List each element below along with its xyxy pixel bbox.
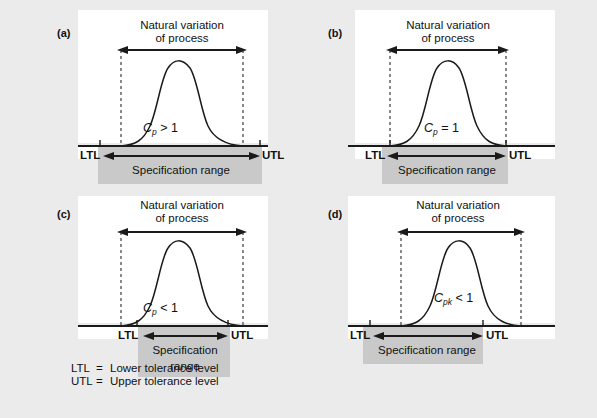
panel-d-utl-label: UTL xyxy=(486,329,508,341)
legend-utl-text: Upper tolerance level xyxy=(110,375,219,387)
legend-ltl-key: LTL xyxy=(71,362,91,374)
panel-d-capability-label: Cpk < 1 xyxy=(434,291,473,307)
panel-a-ltl-label: LTL xyxy=(80,149,100,161)
panel-b-capability-label: Cp = 1 xyxy=(424,121,459,137)
panel-d-ltl-label: LTL xyxy=(350,329,370,341)
legend-ltl-text: Lower tolerance level xyxy=(110,362,219,374)
panel-a-capability-label: Cp > 1 xyxy=(143,121,178,137)
panel-d: (d) Natural variation of process Cpk < 1… xyxy=(328,196,555,364)
panel-d-natural-variation-line1: Natural variation xyxy=(416,199,500,211)
panel-a-letter: (a) xyxy=(57,27,71,39)
panel-b-ltl-label: LTL xyxy=(365,149,385,161)
panel-a-natural-variation-line1: Natural variation xyxy=(140,19,224,31)
panel-b-natural-variation-line1: Natural variation xyxy=(406,19,490,31)
panel-c-spec-range-line1: Specification xyxy=(152,344,217,356)
panel-a-natural-variation-line2: of process xyxy=(155,32,208,44)
panel-b-utl-label: UTL xyxy=(509,149,531,161)
panel-c-letter: (c) xyxy=(57,208,71,220)
panel-c-natural-variation-line1: Natural variation xyxy=(140,199,224,211)
panel-d-natural-variation-line2: of process xyxy=(431,212,484,224)
panel-b-letter: (b) xyxy=(328,27,342,39)
panel-a: (a) Natural variation of process Cp > 1 … xyxy=(57,10,284,184)
process-capability-figure: (a) Natural variation of process Cp > 1 … xyxy=(0,0,597,418)
panel-c-utl-label: UTL xyxy=(231,329,253,341)
panel-b: (b) Natural variation of process Cp = 1 … xyxy=(328,10,555,184)
panel-b-spec-range-label: Specification range xyxy=(398,164,496,176)
panel-c-ltl-label: LTL xyxy=(118,329,138,341)
legend-utl-equals: = xyxy=(96,375,103,387)
panel-a-utl-label: UTL xyxy=(262,149,284,161)
legend-utl-key: UTL xyxy=(71,375,93,387)
legend-ltl-equals: = xyxy=(96,362,103,374)
panel-d-letter: (d) xyxy=(328,208,342,220)
panel-c-capability-label: Cp < 1 xyxy=(143,301,178,317)
panel-c-natural-variation-line2: of process xyxy=(155,212,208,224)
panel-d-spec-range-label: Specification range xyxy=(378,344,476,356)
panel-b-natural-variation-line2: of process xyxy=(421,32,474,44)
panel-a-spec-range-label: Specification range xyxy=(132,164,230,176)
